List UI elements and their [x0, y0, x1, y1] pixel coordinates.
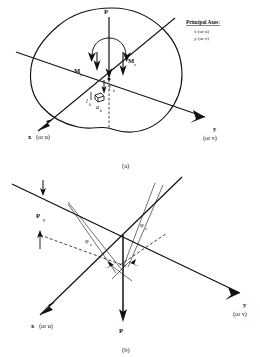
label-fk-main: f: [109, 83, 112, 90]
label-axis-y-a-alt: (or v): [203, 134, 217, 142]
label-axis-x-a: x (or u): [28, 133, 50, 141]
label-mx-sub: x: [133, 62, 136, 67]
panel-b-diagram: P p φ x φ y x (or u) y (or v) P (b): [0, 175, 260, 357]
label-axis-y-b-alt: (or v): [233, 310, 247, 318]
label-pp-main: P: [36, 212, 40, 219]
load-vector-p: [106, 17, 113, 79]
label-axis-x-b: x (or u): [31, 322, 53, 330]
phi-y-reference-line: [120, 233, 167, 265]
load-vector-p-b: [119, 235, 127, 322]
label-axis-y-b: y (or v): [233, 301, 247, 318]
label-my-sub: y: [79, 72, 82, 77]
legend-principal-axes: Principal Axes: x (or u) y (or v): [186, 19, 220, 41]
label-axis-x-b-alt: (or u): [39, 322, 53, 330]
label-load-pp: P p: [36, 212, 46, 222]
label-load-p-b: P: [119, 327, 123, 334]
label-axis-x-b-main: x: [31, 322, 35, 329]
label-phi-y-main: φ: [140, 221, 144, 228]
label-axis-y-a-main: y: [213, 125, 217, 132]
label-pp-sub: p: [43, 217, 46, 222]
label-phi-y-sub: y: [144, 226, 147, 231]
phi-x-reference-line: [40, 235, 128, 267]
legend-item-y: y (or v): [194, 36, 209, 41]
label-axis-y-a: y (or v): [203, 125, 217, 142]
label-ak-main: a: [96, 103, 99, 110]
legend-item-x: x (or u): [194, 29, 209, 34]
label-area-ak: a k: [96, 103, 103, 113]
angle-tick-y: [130, 259, 139, 266]
label-moment-my: M y: [74, 67, 82, 77]
label-axis-y-b-main: y: [243, 301, 247, 308]
figure-container: P M y M x f k l k a k x (or u) y (or v): [0, 0, 260, 357]
label-force-fk: f k: [109, 83, 116, 93]
element-ak: [95, 93, 104, 102]
axis-y-line-b: [12, 184, 240, 300]
label-axis-x-a-main: x: [28, 133, 32, 140]
axis-x-line-b: [40, 177, 182, 315]
label-lk-main: l: [86, 97, 88, 104]
load-pp-vector: [40, 180, 46, 196]
label-fk-sub: k: [113, 88, 116, 93]
label-load-p: P: [104, 8, 108, 15]
legend-title: Principal Axes:: [186, 19, 220, 25]
hatch-line-b: [112, 261, 130, 279]
angle-tick-x: [105, 261, 114, 268]
label-ak-sub: k: [100, 108, 103, 113]
panel-a-caption: (a): [122, 162, 129, 170]
panel-b-caption: (b): [122, 346, 130, 354]
label-lk-sub: k: [89, 102, 92, 107]
construction-line-left: [68, 202, 122, 270]
label-phi-y: φ y: [140, 221, 147, 231]
panel-a-diagram: P M y M x f k l k a k x (or u) y (or v): [0, 0, 260, 180]
label-phi-x-sub: x: [89, 242, 92, 247]
axis-x-line: [38, 18, 175, 131]
reference-tick-arrow: [37, 230, 43, 249]
label-moment-mx: M x: [128, 57, 136, 67]
label-phi-x-main: φ: [85, 237, 89, 244]
label-phi-x: φ x: [85, 237, 92, 247]
label-axis-x-a-alt: (or u): [36, 133, 50, 141]
